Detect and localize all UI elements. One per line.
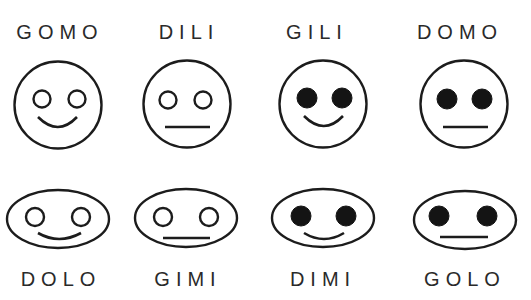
smile-mouth-icon [304,116,343,126]
filled-eye-right-icon [332,88,352,108]
open-eye-left-icon [160,92,177,109]
face-golo [414,191,516,249]
face-gomo [15,62,102,149]
open-eye-right-icon [72,208,90,226]
filled-eye-left-icon [297,88,317,108]
smile-mouth-icon [38,117,77,127]
face-gimi [135,189,237,247]
open-eye-left-icon [34,91,51,108]
faces-drawing [0,0,531,300]
round-head-outline [421,61,508,148]
smile-mouth-icon [304,233,344,239]
round-head-outline [280,61,367,148]
round-head-outline [144,61,231,148]
filled-eye-left-icon [291,206,311,226]
open-eye-left-icon [154,208,172,226]
open-eye-right-icon [200,208,218,226]
filled-eye-right-icon [336,206,356,226]
face-figure: GOMO DILI GILI DOMO DOLO GIMI DIMI GOLO [0,0,531,300]
face-dili [144,61,231,148]
face-domo [421,61,508,148]
smile-mouth-icon [38,233,81,239]
face-dimi [272,189,374,247]
round-head-outline [15,62,102,149]
filled-eye-right-icon [477,206,497,226]
open-eye-right-icon [195,92,212,109]
open-eye-right-icon [69,91,86,108]
open-eye-left-icon [26,208,44,226]
face-dolo [7,190,109,248]
face-gili [280,61,367,148]
filled-eye-left-icon [437,89,457,109]
filled-eye-left-icon [429,206,449,226]
filled-eye-right-icon [472,89,492,109]
